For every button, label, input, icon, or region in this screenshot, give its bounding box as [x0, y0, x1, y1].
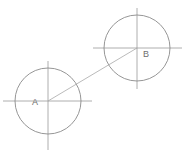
circle-a-group: A — [3, 61, 92, 150]
center-to-center-connector — [48, 48, 137, 101]
circle-b-group: B — [93, 8, 182, 89]
circle-b-center-label: B — [143, 49, 149, 59]
circle-a-center-label: A — [32, 97, 38, 107]
geometry-figure: A B — [0, 0, 189, 153]
drawing-canvas: A B — [0, 0, 189, 153]
